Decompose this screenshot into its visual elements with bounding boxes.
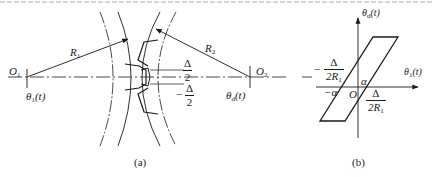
r2-label: R2 <box>205 43 215 56</box>
alpha-pos-label: α <box>361 76 367 87</box>
o1-label: O1 <box>9 66 20 79</box>
gear2-tooth-upper <box>138 40 158 66</box>
theta1-label: θ1(t) <box>26 91 45 104</box>
gear2-pitch-circle <box>158 12 176 146</box>
left-frac-sign: − <box>314 64 320 75</box>
gear2-tooth-lower <box>138 88 158 114</box>
right-fraction: Δ 2R1 <box>366 88 386 115</box>
panel-a-gear-mesh <box>8 12 312 146</box>
gear2-dedendum-circle <box>142 12 160 146</box>
y-axis-label: θd(t) <box>362 8 380 20</box>
backlash-bot-fraction: Δ 2 <box>184 83 195 108</box>
panel-a-caption: (a) <box>134 156 146 168</box>
x-axis-label: θ1(t) <box>404 67 422 79</box>
backlash-top-fraction: Δ 2 <box>182 58 193 83</box>
o2-label: O2 <box>256 66 267 79</box>
left-fraction: Δ 2R1 <box>324 57 344 84</box>
r1-label: R1 <box>70 47 80 60</box>
gear1-pitch-circle <box>100 12 113 146</box>
panel-b-caption: (b) <box>352 156 365 168</box>
theta2-label: θd(t) <box>226 90 245 103</box>
gear1-addendum-circle <box>118 12 131 146</box>
alpha-neg-label: −α <box>324 87 337 98</box>
backlash-bot-sign: − <box>176 89 182 100</box>
origin-label: O <box>349 89 357 100</box>
